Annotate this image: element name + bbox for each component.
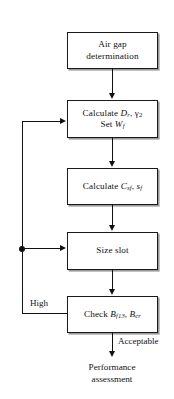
node-performance-line-2: assessment [92,374,133,384]
arrowhead-to-calculate-dr-feedback [60,118,66,124]
node-air-gap-line-2: determination [86,51,138,63]
node-calculate-csf-sf: Calculate Csf, sf [67,168,158,205]
node-air-gap-line-1: Air gap [98,39,127,51]
node-check-b-label: Check Bf13, Bcr [84,309,141,321]
node-check-flux-densities: Check Bf13, Bcr [67,296,158,333]
connector-air-gap-to-calculate-dr [112,69,113,94]
connector-check-b-to-performance [112,333,113,353]
connector-calculate-csf-to-size-slot [112,205,113,227]
node-size-slot: Size slot [67,232,158,270]
arrowhead-to-calculate-csf [109,161,115,167]
edge-label-high: High [30,298,48,308]
arrowhead-to-check-b [109,289,115,295]
feedback-junction-dot [19,246,25,252]
feedback-branch-to-calculate-dr [22,121,61,122]
node-calculate-dr-line-1: Calculate Dr, γ2 [83,108,143,120]
arrowhead-to-performance [109,351,115,357]
node-calculate-dr-line-2: Set Wf [100,119,124,131]
arrowhead-to-calculate-dr [109,93,115,99]
node-air-gap-determination: Air gap determination [67,32,158,69]
connector-calculate-dr-to-calculate-csf [112,138,113,162]
feedback-vertical-riser [22,121,23,314]
node-calculate-dr-gamma2: Calculate Dr, γ2 Set Wf [67,100,158,138]
node-performance-assessment: Performance assessment [52,362,172,386]
arrowhead-to-size-slot-feedback [60,245,66,251]
arrowhead-to-size-slot [109,225,115,231]
node-calculate-csf-label: Calculate Csf, sf [83,181,142,193]
feedback-branch-to-size-slot [22,248,61,249]
flowchart-diagram: Air gap determination Calculate Dr, γ2 S… [0,0,174,399]
feedback-segment-from-check-b [22,313,67,314]
edge-label-acceptable: Acceptable [118,336,158,346]
node-performance-line-1: Performance [89,362,136,372]
node-size-slot-label: Size slot [96,245,128,257]
connector-size-slot-to-check-b [112,270,113,290]
